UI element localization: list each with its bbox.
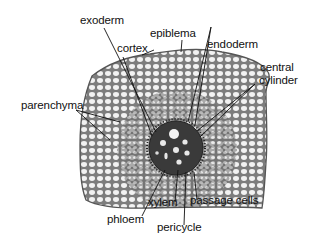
label-xylem: xylem	[148, 197, 178, 209]
label-parenchyma: parenchyma	[21, 100, 83, 112]
root-cross-section-diagram: exoderm epiblema cortex endoderm central…	[0, 0, 315, 246]
label-phloem: phloem	[107, 214, 144, 226]
label-passage-cells: passage cells	[190, 195, 258, 207]
label-endoderm: endoderm	[207, 39, 258, 51]
label-exoderm: exoderm	[80, 15, 124, 27]
label-cortex: cortex	[117, 43, 148, 55]
label-pericycle: pericycle	[157, 222, 201, 234]
label-epiblema: epiblema	[150, 28, 196, 40]
label-central-cylinder-line2: cylinder	[259, 75, 298, 87]
label-central-cylinder: central	[260, 62, 294, 74]
